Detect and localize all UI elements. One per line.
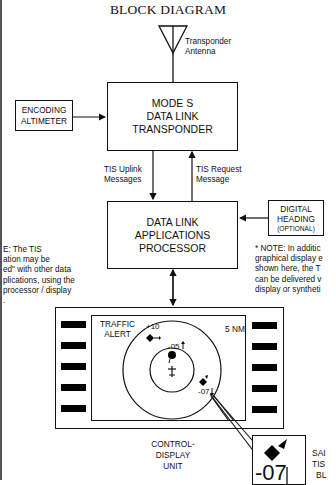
callout-side-text: SAI TIS BL	[312, 448, 326, 481]
magnified-altitude: -07	[255, 462, 287, 484]
magnified-target-callout: -07	[252, 435, 306, 485]
cdu-label: CONTROL- DISPLAY UNIT	[148, 439, 198, 472]
